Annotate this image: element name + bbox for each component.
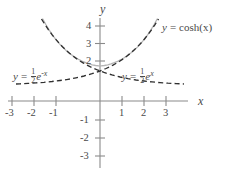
annotation-cosh-body: cosh(x) — [179, 21, 212, 33]
annotation-half-exp-neg-fraction: 12 — [31, 68, 36, 86]
y-tick-label--1: -1 — [80, 115, 89, 126]
annotation-half-exp-pos-equals: = — [130, 70, 136, 82]
math-figure-cosh-plot: -3 -2 -1 1 2 3 4 3 2 -1 -2 -3 x y y=cosh… — [0, 0, 226, 177]
axis-group — [8, 18, 188, 168]
x-tick-label--3: -3 — [5, 108, 14, 119]
annotation-cosh-var: y — [162, 21, 167, 33]
annotation-half-exp-neg: y=12e-x — [13, 68, 47, 86]
annotation-half-exp-neg-exponent: -x — [41, 69, 47, 78]
y-tick-label-3: 3 — [86, 39, 91, 50]
y-tick-label-2: 2 — [86, 56, 91, 67]
fraction-denominator: 2 — [140, 77, 145, 85]
annotation-half-exp-neg-var: y — [13, 70, 18, 82]
annotation-cosh-equals: = — [170, 21, 176, 33]
annotation-half-exp-neg-equals: = — [21, 70, 27, 82]
x-tick-label--2: -2 — [27, 108, 36, 119]
x-axis-label: x — [198, 95, 203, 107]
y-tick-label-4: 4 — [86, 21, 91, 32]
x-tick-label--1: -1 — [49, 108, 58, 119]
annotation-half-exp-pos-var: y — [122, 70, 127, 82]
x-tick-label-3: 3 — [163, 108, 168, 119]
annotation-cosh: y=cosh(x) — [162, 22, 212, 33]
annotation-half-exp-pos-fraction: 12 — [140, 68, 145, 86]
x-tick-label-1: 1 — [119, 108, 124, 119]
x-tick-label-2: 2 — [141, 108, 146, 119]
annotation-half-exp-pos: y=12ex — [122, 68, 154, 86]
y-axis-label: y — [100, 3, 105, 15]
y-tick-label--2: -2 — [80, 133, 89, 144]
annotation-half-exp-pos-exponent: x — [150, 69, 154, 78]
y-tick-label--3: -3 — [80, 151, 89, 162]
fraction-denominator: 2 — [31, 77, 36, 85]
